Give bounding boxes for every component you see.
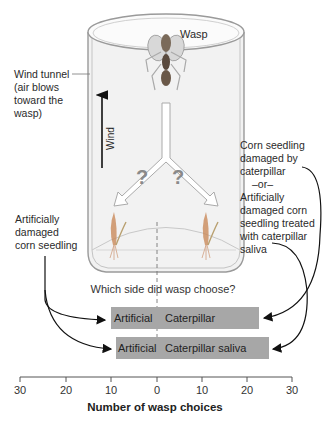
tick-label: 0 [154,384,160,396]
x-axis [20,377,292,382]
or-label: –or– [252,178,273,191]
chart-question-title: Which side did wasp choose? [91,283,236,295]
tick-label: 30 [286,384,298,396]
bar-label-artificial-1: Artificial [114,307,153,329]
question-mark-left-icon: ? [136,166,148,189]
x-axis-label: Number of wasp choices [87,401,222,413]
arrow-right-to-bottom-bar [272,243,307,349]
bar-label-caterpillar-saliva: Caterpillar saliva [165,337,246,359]
right-stimulus-label-caterpillar: Corn seedling damaged by caterpillar [240,139,305,178]
wasp-label: Wasp [180,28,208,41]
question-mark-right-icon: ? [172,166,184,189]
bar-label-artificial-2: Artificial [118,337,157,359]
tick-label: 10 [105,384,117,396]
right-stimulus-label-saliva: Artificially damaged corn seedling treat… [240,191,315,256]
tick-label: 20 [241,384,253,396]
left-stimulus-label: Artificially damaged corn seedling [15,213,77,252]
wind-tunnel-label: Wind tunnel (air blows toward the wasp) [14,68,69,120]
tick-label: 10 [196,384,208,396]
wind-label: Wind [104,127,117,150]
tick-label: 30 [14,384,26,396]
tick-label: 20 [60,384,72,396]
bar-label-caterpillar: Caterpillar [165,307,215,329]
